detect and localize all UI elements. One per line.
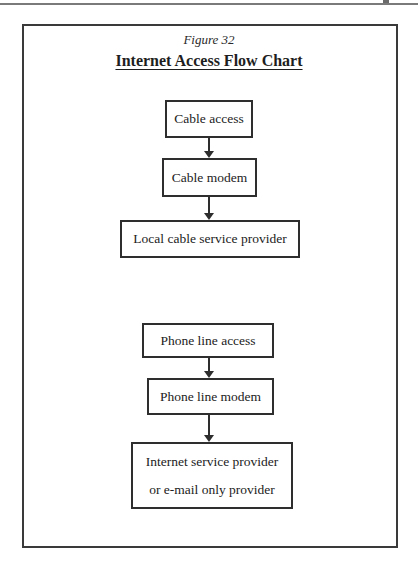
node-label-line-2: or e-mail only provider (149, 483, 275, 497)
arrow-down-icon (204, 435, 214, 442)
connector-cable-access-to-modem (208, 138, 210, 152)
node-label: Phone line modem (160, 390, 261, 404)
node-internet-service-provider: Internet service provider or e-mail only… (131, 442, 293, 509)
chart-title-text: Internet Access Flow Chart (115, 52, 302, 69)
node-cable-access: Cable access (165, 100, 253, 138)
page-number-fragment (383, 0, 389, 3)
arrow-down-icon (204, 151, 214, 158)
node-phone-line-access: Phone line access (142, 323, 274, 358)
node-label: Cable access (174, 112, 243, 126)
node-label: Cable modem (172, 171, 247, 185)
chart-title: Internet Access Flow Chart (0, 52, 418, 70)
connector-phone-modem-to-isp (208, 415, 210, 436)
figure-label: Figure 32 (0, 32, 418, 48)
connector-phone-access-to-modem (208, 358, 210, 372)
node-cable-modem: Cable modem (162, 158, 257, 197)
arrow-down-icon (204, 371, 214, 378)
page-header-rule (0, 3, 418, 5)
node-label: Phone line access (160, 334, 255, 348)
arrow-down-icon (204, 213, 214, 220)
connector-cable-modem-to-provider (208, 197, 210, 214)
node-local-cable-service-provider: Local cable service provider (120, 220, 300, 258)
node-label-line-1: Internet service provider (146, 455, 279, 469)
node-label: Local cable service provider (133, 232, 286, 246)
node-phone-line-modem: Phone line modem (147, 378, 274, 415)
